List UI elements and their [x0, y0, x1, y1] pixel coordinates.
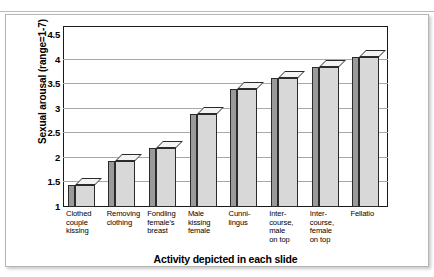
bar-side-face: [108, 161, 115, 207]
y-axis-tick-label: 3: [55, 102, 60, 113]
bar-top-face: [319, 60, 346, 67]
x-axis-category-label-line: on top: [269, 236, 314, 245]
bar-side-face: [271, 78, 278, 207]
bar: [352, 50, 379, 207]
bar-side-face: [230, 89, 237, 207]
bar: [230, 82, 257, 207]
x-axis-category-label: Inter-course,femaleon top: [310, 210, 355, 244]
x-axis-category-label-line: lingus: [229, 219, 274, 228]
x-axis-category-label: Inter-course,maleon top: [269, 210, 314, 244]
y-axis-tick-labels: 11.522.533.544.5: [28, 26, 60, 207]
x-axis-category-label-line: clothing: [107, 219, 152, 228]
x-axis-category-label: Malekissingfemale: [188, 210, 233, 236]
x-axis-category-label-line: female: [188, 227, 233, 236]
x-axis-category-label-line: Fellatio: [350, 210, 395, 219]
bar-side-face: [352, 57, 359, 207]
bar: [271, 71, 298, 207]
x-axis-category-label-line: kissing: [66, 227, 111, 236]
bar-top-face: [75, 178, 102, 185]
x-axis-category-label: Fondlingfemale'sbreast: [147, 210, 192, 236]
bar-side-face: [190, 114, 197, 207]
bar: [312, 60, 339, 207]
bar-side-face: [312, 67, 319, 207]
bar-front-face: [319, 67, 339, 207]
bar-top-face: [359, 50, 386, 57]
bar-top-face: [197, 107, 224, 114]
y-axis-tick-label: 1.5: [47, 176, 60, 187]
bar-top-face: [156, 141, 183, 148]
y-axis-tick-label: 4: [55, 53, 60, 64]
x-axis-category-label: Clothedcouplekissing: [66, 210, 111, 236]
bar: [149, 141, 176, 207]
x-axis-category-labels: ClothedcouplekissingRemovingclothingFond…: [63, 210, 388, 254]
bar-front-face: [115, 161, 135, 207]
y-axis-tick-label: 1: [55, 201, 60, 212]
bar-front-face: [278, 78, 298, 207]
top-divider-rule: [0, 11, 434, 12]
x-axis-category-label: Removingclothing: [107, 210, 152, 227]
bar-top-face: [237, 82, 264, 89]
y-axis-tick-label: 3.5: [47, 78, 60, 89]
y-axis-tick-label: 2.5: [47, 127, 60, 138]
bar: [190, 107, 217, 207]
bar-front-face: [75, 185, 95, 207]
bar-series: [63, 26, 388, 207]
bar-top-face: [115, 154, 142, 161]
bar: [68, 178, 95, 207]
bar-front-face: [156, 148, 176, 207]
x-axis-category-label-line: on top: [310, 236, 355, 245]
x-axis-category-label: Fellatio: [350, 210, 395, 219]
chart-figure: Sexual arousal (range=1-7) 11.522.533.54…: [0, 0, 434, 277]
bar: [108, 154, 135, 207]
y-axis-tick-label: 2: [55, 151, 60, 162]
bar-front-face: [237, 89, 257, 207]
bar-front-face: [197, 114, 217, 207]
bar-top-face: [278, 71, 305, 78]
bar-side-face: [149, 148, 156, 207]
plot-area: [63, 26, 388, 207]
x-axis-title: Activity depicted in each slide: [63, 253, 388, 265]
bar-side-face: [68, 185, 75, 207]
bar-front-face: [359, 57, 379, 207]
x-axis-category-label: Cunni-lingus: [229, 210, 274, 227]
x-axis-category-label-line: breast: [147, 227, 192, 236]
y-axis-tick-label: 4.5: [47, 29, 60, 40]
